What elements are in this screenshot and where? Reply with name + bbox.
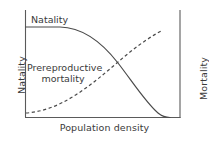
- y-axis-left-label: Natality: [16, 56, 27, 94]
- natality-curve-label: Natality: [31, 14, 68, 25]
- prereproductive-mortality-curve-label: Prereproductive mortality: [27, 62, 99, 84]
- y-axis-right-label: Mortality: [198, 57, 209, 100]
- population-density-chart: Natality Mortality Population density Na…: [0, 0, 209, 141]
- x-axis-label: Population density: [0, 122, 209, 133]
